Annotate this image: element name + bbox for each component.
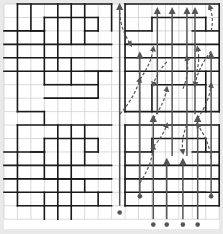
start-dot	[195, 222, 200, 227]
start-dot	[117, 210, 122, 215]
start-dot	[181, 222, 186, 227]
start-dot	[151, 222, 156, 227]
start-dot	[138, 194, 143, 199]
start-dot	[209, 194, 214, 199]
diagram-canvas	[0, 0, 223, 234]
start-dot	[164, 222, 169, 227]
